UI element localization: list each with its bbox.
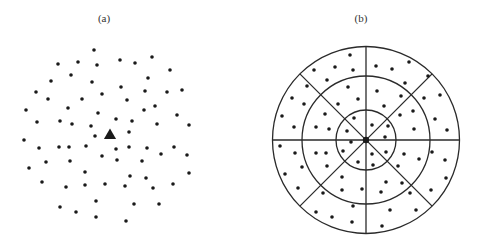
data-point: [94, 199, 98, 203]
data-point: [280, 114, 284, 118]
data-point: [100, 92, 104, 96]
data-point: [95, 63, 99, 67]
data-point: [140, 159, 144, 163]
data-point: [83, 170, 87, 174]
data-point: [382, 104, 386, 108]
data-point: [384, 150, 388, 154]
panel-b-label: (b): [355, 12, 368, 25]
data-point: [388, 208, 392, 212]
data-point: [340, 175, 344, 179]
data-point: [90, 80, 94, 84]
data-point: [153, 104, 157, 108]
data-point: [408, 191, 412, 195]
data-point: [324, 151, 328, 155]
data-point: [314, 151, 318, 155]
data-point: [96, 111, 100, 115]
data-point: [127, 130, 131, 134]
data-point: [119, 85, 123, 89]
data-point: [118, 58, 122, 62]
data-point: [159, 152, 163, 156]
data-point: [27, 166, 31, 170]
data-point: [330, 215, 334, 219]
data-point: [300, 165, 304, 169]
data-point: [69, 73, 73, 77]
data-point: [444, 176, 448, 180]
data-point: [433, 117, 437, 121]
data-point: [325, 78, 329, 82]
data-point: [142, 108, 146, 112]
data-point: [171, 182, 175, 186]
data-point: [345, 129, 349, 133]
data-point: [83, 183, 87, 187]
data-point: [187, 123, 191, 127]
data-point: [399, 94, 403, 98]
data-point: [58, 205, 62, 209]
data-point: [151, 186, 155, 190]
data-point: [34, 90, 38, 94]
data-point: [155, 122, 159, 126]
data-point: [278, 144, 282, 148]
data-point: [374, 64, 378, 68]
center-dot: [363, 137, 369, 143]
data-point: [44, 160, 48, 164]
data-point: [22, 138, 26, 142]
data-point: [333, 65, 337, 69]
data-point: [292, 125, 296, 129]
data-point: [127, 145, 131, 149]
data-point: [390, 67, 394, 71]
data-point: [67, 145, 71, 149]
data-point: [125, 98, 129, 102]
data-point: [398, 113, 402, 117]
data-point: [94, 215, 98, 219]
data-point: [302, 102, 306, 106]
data-point: [68, 159, 72, 163]
data-point: [145, 146, 149, 150]
data-point: [58, 119, 62, 123]
data-point: [349, 140, 353, 144]
data-point: [356, 160, 360, 164]
data-point: [350, 220, 354, 224]
data-point: [321, 191, 325, 195]
data-point: [290, 96, 294, 100]
data-point: [133, 61, 137, 65]
data-point: [175, 113, 179, 117]
data-point: [341, 149, 345, 153]
data-point: [356, 97, 360, 101]
data-point: [49, 79, 53, 83]
data-point: [380, 224, 384, 228]
data-point: [348, 53, 352, 57]
data-point: [180, 88, 184, 92]
data-point: [325, 164, 329, 168]
data-point: [383, 135, 387, 139]
data-point: [66, 106, 70, 110]
data-point: [84, 144, 88, 148]
data-point: [115, 158, 119, 162]
data-point: [351, 204, 355, 208]
data-point: [128, 174, 132, 178]
data-point: [430, 150, 434, 154]
data-point: [314, 210, 318, 214]
data-point: [144, 176, 148, 180]
data-point: [438, 93, 442, 97]
data-point: [386, 124, 390, 128]
data-point: [403, 81, 407, 85]
data-point: [124, 219, 128, 223]
data-point: [130, 119, 134, 123]
data-point: [172, 145, 176, 149]
data-point: [305, 84, 309, 88]
data-point: [185, 153, 189, 157]
data-point: [414, 208, 418, 212]
triangle-marker-icon: [104, 129, 116, 139]
data-point: [422, 96, 426, 100]
data-point: [402, 152, 406, 156]
data-point: [70, 122, 74, 126]
data-point: [74, 210, 78, 214]
data-point: [80, 97, 84, 101]
data-point: [429, 188, 433, 192]
figure: (a) (b): [0, 0, 487, 251]
data-point: [375, 89, 379, 93]
data-point: [360, 187, 364, 191]
data-point: [64, 185, 68, 189]
data-point: [293, 151, 297, 155]
data-point: [283, 172, 287, 176]
